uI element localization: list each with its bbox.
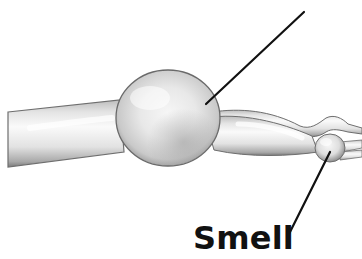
olfactory-bulb [315, 134, 345, 162]
top-pointer-line [206, 12, 304, 104]
anatomy-diagram [0, 0, 362, 259]
smell-label: Smell [193, 222, 294, 254]
left-tube [8, 100, 124, 167]
bulb-sphere [116, 70, 220, 166]
right-tube [205, 116, 318, 155]
